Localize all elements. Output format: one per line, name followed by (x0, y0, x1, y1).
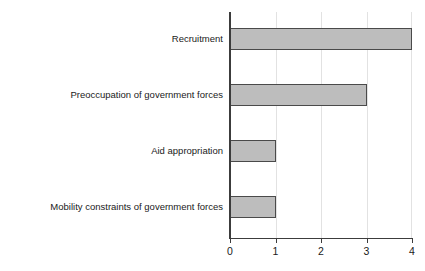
bar-chart: 0 1 2 3 4 Recruitment Preoccupation of g… (0, 0, 425, 271)
category-label-mobility-constraints-of-government-forces: Mobility constraints of government force… (0, 201, 223, 213)
plot-area (230, 12, 412, 238)
x-tick-2 (321, 238, 322, 243)
x-tick-0 (230, 238, 231, 243)
x-tick-label-4: 4 (400, 245, 424, 257)
x-tick-3 (367, 238, 368, 243)
bar-preoccupation-of-government-forces (230, 84, 367, 106)
category-label-preoccupation-of-government-forces: Preoccupation of government forces (0, 89, 223, 101)
y-axis-line (229, 12, 231, 239)
category-label-recruitment: Recruitment (0, 33, 223, 45)
x-tick-label-0: 0 (218, 245, 242, 257)
bar-recruitment (230, 28, 412, 50)
x-tick-4 (412, 238, 413, 243)
category-label-aid-appropriation: Aid appropriation (0, 145, 223, 157)
x-tick-label-3: 3 (355, 245, 379, 257)
bar-mobility-constraints-of-government-forces (230, 196, 276, 218)
bar-aid-appropriation (230, 140, 276, 162)
x-tick-1 (276, 238, 277, 243)
x-tick-label-2: 2 (309, 245, 333, 257)
x-tick-label-1: 1 (264, 245, 288, 257)
